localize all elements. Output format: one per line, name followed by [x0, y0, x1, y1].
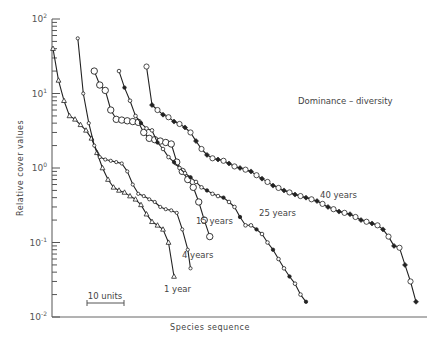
data-point [102, 87, 108, 93]
data-point [254, 173, 259, 178]
series-label: 25 years [259, 208, 296, 218]
data-point [276, 185, 281, 190]
data-point [73, 117, 78, 121]
data-point [304, 300, 307, 303]
y-tick-label: 10-2 [30, 310, 48, 322]
data-point [364, 219, 369, 224]
data-point [56, 78, 61, 82]
data-point [298, 193, 303, 198]
data-point [159, 205, 162, 208]
data-point [150, 129, 154, 133]
data-point [271, 248, 274, 251]
data-point [265, 179, 270, 184]
data-point [414, 299, 419, 304]
data-point [304, 195, 309, 200]
data-point [342, 210, 347, 215]
data-point [155, 107, 160, 112]
data-point [199, 146, 204, 151]
data-point [266, 241, 270, 245]
data-point [189, 176, 192, 179]
data-point [211, 192, 215, 196]
y-tick-label: 10-1 [30, 236, 48, 248]
data-point [403, 262, 408, 267]
data-point [156, 141, 159, 144]
data-point [397, 245, 402, 250]
data-point [137, 192, 140, 195]
data-point [164, 208, 167, 211]
scale-bar: 10 units [87, 291, 124, 306]
data-point [128, 193, 133, 197]
data-point [97, 82, 103, 88]
data-point [106, 177, 111, 181]
data-point [108, 107, 114, 113]
data-point [167, 155, 171, 159]
y-tick-label: 101 [32, 87, 47, 99]
data-point [109, 159, 112, 162]
data-point [309, 197, 314, 202]
data-point [293, 282, 297, 286]
data-point [331, 207, 336, 212]
data-point [194, 180, 198, 184]
scale-bar-label: 10 units [88, 291, 123, 301]
data-point [115, 161, 118, 164]
data-point [282, 188, 287, 193]
data-point [144, 64, 149, 69]
data-point [392, 243, 397, 248]
data-point [277, 257, 281, 261]
data-point [227, 161, 232, 166]
data-point [196, 199, 202, 205]
chart-annotation: Dominance – diversity [298, 96, 393, 106]
y-tick-labels: 10210110010-110-2 [30, 12, 48, 322]
data-point [188, 130, 193, 135]
data-point [293, 192, 298, 197]
data-point [207, 233, 213, 239]
data-point [166, 240, 171, 244]
data-point [190, 184, 196, 190]
data-point [233, 205, 237, 209]
data-point [249, 224, 253, 228]
data-point [181, 228, 184, 231]
data-point [238, 166, 243, 171]
data-point [175, 211, 178, 214]
data-point [287, 190, 292, 195]
data-point [222, 196, 225, 199]
data-point [172, 274, 177, 278]
data-point [142, 194, 145, 197]
data-point [227, 200, 231, 204]
data-point [166, 115, 171, 120]
data-point [337, 209, 342, 214]
series-1-year [51, 46, 177, 278]
data-point [67, 113, 72, 117]
data-point [244, 224, 248, 228]
data-point [170, 209, 173, 212]
data-point [299, 293, 303, 297]
data-point [93, 144, 96, 147]
data-point [210, 156, 215, 161]
data-point [100, 165, 105, 169]
data-point [189, 267, 192, 270]
data-point [353, 214, 358, 219]
data-point [205, 189, 208, 192]
x-axis-title: Species sequence [170, 323, 250, 332]
data-point [348, 212, 353, 217]
data-point [238, 215, 241, 218]
data-point [408, 279, 413, 284]
data-point [91, 68, 97, 74]
data-point [131, 183, 134, 186]
data-point [282, 267, 286, 271]
data-point [183, 171, 187, 175]
data-point [76, 37, 79, 40]
data-point [128, 99, 132, 103]
data-point [255, 228, 258, 231]
data-point [172, 160, 175, 163]
data-point [98, 156, 101, 159]
data-point [375, 223, 380, 228]
data-point [232, 164, 237, 169]
data-point [221, 158, 226, 163]
data-point [177, 121, 182, 126]
y-tick-label: 102 [32, 12, 47, 24]
data-point [359, 218, 364, 223]
data-point [153, 200, 156, 203]
data-point [139, 121, 142, 124]
data-point [126, 170, 129, 173]
